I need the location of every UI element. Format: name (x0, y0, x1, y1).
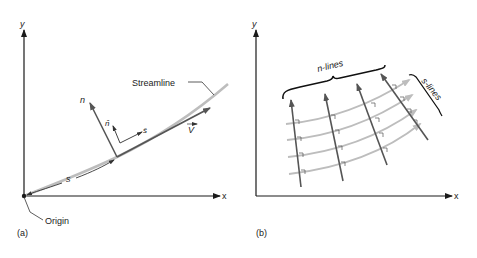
arc-length-arrow-right (76, 160, 114, 178)
s-lines-label: s-lines (419, 76, 444, 103)
normal-axis-n (90, 103, 117, 157)
unit-normal-vector (113, 126, 120, 143)
origin-label: Origin (45, 216, 69, 226)
y-axis-label-b: y (251, 19, 257, 29)
s-line (287, 95, 412, 140)
x-axis-label-b: x (454, 191, 459, 201)
unit-tangent-vector (120, 132, 142, 143)
velocity-label: V (188, 125, 195, 135)
unit-normal-label: n̂ (105, 119, 110, 128)
panel-b: y x (251, 19, 459, 238)
caption-a: (a) (17, 228, 28, 238)
unit-tangent-label: ŝ (143, 126, 147, 135)
arc-length-arrow-left (27, 183, 62, 195)
streamline-leader (188, 82, 214, 95)
n-lines-label: n-lines (316, 58, 345, 74)
arc-length-label: s (66, 174, 71, 184)
caption-b: (b) (256, 228, 267, 238)
x-axis-label-a: x (222, 191, 227, 201)
velocity-vector (117, 108, 210, 157)
s-lines (286, 80, 420, 174)
normal-label: n (80, 95, 85, 105)
origin-leader (24, 197, 43, 220)
s-line (289, 124, 420, 174)
y-axis-label-a: y (19, 19, 25, 29)
n-lines-brace (283, 65, 385, 99)
streamline-coordinates-figure: y x s n V n̂ ŝ Streamline Origin (a) (0, 0, 477, 258)
panel-a: y x s n V n̂ ŝ Streamline Origin (a) (17, 19, 228, 238)
streamline-label: Streamline (132, 78, 175, 88)
s-line (288, 110, 416, 157)
